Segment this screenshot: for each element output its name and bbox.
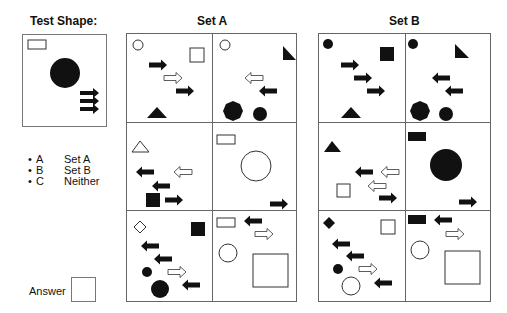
set-b-cell-6 (408, 215, 480, 285)
outline-rectangle-icon (28, 40, 46, 49)
set-a-cell-5 (134, 221, 205, 298)
set-b-title: Set B (389, 14, 420, 28)
set-a-cell-4 (217, 135, 288, 210)
test-shape-panel (22, 34, 107, 127)
set-b-cell-5 (323, 217, 395, 295)
answer-label: Answer (29, 285, 66, 297)
set-b-grid (318, 33, 491, 302)
set-a-grid (126, 33, 297, 302)
answer-box[interactable] (71, 277, 96, 302)
set-b-cell-1 (323, 39, 394, 118)
test-shape-title: Test Shape: (30, 14, 97, 28)
black-right-arrows-icon (80, 88, 99, 114)
black-circle-icon (50, 58, 80, 88)
set-a-cell-6 (217, 216, 288, 288)
set-b-figures (319, 34, 492, 303)
set-a-cell-1 (133, 40, 204, 118)
set-a-cell-2 (220, 40, 296, 121)
set-b-cell-3 (324, 141, 399, 204)
test-shape-figure (23, 35, 108, 128)
set-b-cell-4 (408, 132, 477, 208)
set-b-cell-2 (408, 39, 469, 121)
set-a-title: Set A (197, 14, 227, 28)
set-a-figures (127, 34, 298, 303)
